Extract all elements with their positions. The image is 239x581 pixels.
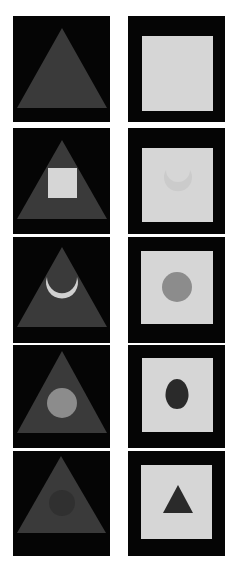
triangle-square-icon <box>13 128 110 234</box>
stimulus-triangle-with-circle <box>13 345 110 451</box>
triangle-circle-icon <box>13 345 110 451</box>
square-circle-icon <box>128 237 225 343</box>
triangle-icon <box>13 16 110 122</box>
stimulus-triangle-with-square <box>13 128 110 234</box>
stimulus-square-with-faint-shape <box>128 128 225 234</box>
stimulus-square-with-triangle <box>128 451 225 557</box>
stimulus-square-with-circle <box>128 237 225 343</box>
square-triangle-icon <box>128 451 225 557</box>
stimulus-triangle-plain <box>13 16 110 122</box>
triangle-faint-circle-icon <box>13 451 110 557</box>
stimulus-square-with-egg <box>128 345 225 451</box>
stimulus-triangle-with-crescent <box>13 237 110 343</box>
triangle-crescent-icon <box>13 237 110 343</box>
square-faint-shape-icon <box>128 128 225 234</box>
stimulus-square-plain <box>128 16 225 122</box>
stimulus-triangle-with-faint-circle <box>13 451 110 557</box>
square-egg-icon <box>128 345 225 451</box>
square-icon <box>128 16 225 122</box>
